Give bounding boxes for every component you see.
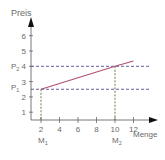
ticks: 24681012123456 [22,32,139,134]
x-tick-label: 2 [39,125,44,134]
price-reference-label: P1 [11,83,19,93]
axes [28,17,158,123]
price-reference-subscript: 2 [16,66,19,72]
y-tick-label: 6 [22,32,27,41]
y-axis-label: Preis [11,8,32,18]
x-tick-label: 4 [57,125,62,134]
x-axis-arrow-icon [149,117,158,123]
y-tick-label: 5 [22,47,27,56]
x-tick-label: 6 [76,125,81,134]
price-reference-subscript: 1 [16,87,19,93]
reference-labels: P1M1P2M2 [11,62,122,146]
x-axis-label: Menge [133,130,158,139]
series [41,61,134,89]
y-axis-arrow-icon [28,17,34,27]
quantity-reference-subscript: 1 [45,140,48,146]
price-reference-label: P2 [11,62,19,72]
x-tick-label: 8 [94,125,99,134]
quantity-reference-label: M2 [112,136,122,146]
y-tick-label: 3 [22,78,27,87]
x-tick-label: 10 [111,125,120,134]
series-line [41,61,134,89]
y-tick-label: 4 [22,62,27,71]
y-tick-label: 1 [22,108,27,117]
quantity-reference-label: M1 [38,136,48,146]
y-tick-label: 2 [22,93,27,102]
quantity-reference-subscript: 2 [119,140,122,146]
price-quantity-chart: 24681012123456 Preis Menge P1M1P2M2 [0,0,165,160]
